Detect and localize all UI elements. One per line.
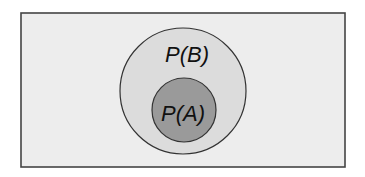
venn-diagram: P(B) P(A) — [0, 0, 365, 177]
set-a-label: P(A) — [161, 101, 205, 126]
set-b-label: P(B) — [165, 42, 209, 67]
